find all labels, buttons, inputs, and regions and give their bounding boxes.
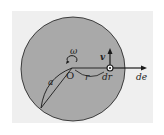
label-velocity: v (100, 52, 106, 62)
point-marker-dot (109, 67, 111, 69)
label-radius: r (85, 72, 90, 82)
label-displacement: dr (102, 72, 113, 82)
label-origin: O (66, 70, 74, 81)
rotating-disk-diagram: ω O r a v dr de (0, 0, 164, 135)
label-arc: a (48, 77, 53, 87)
label-direction: de (136, 72, 147, 82)
label-omega: ω (70, 46, 78, 56)
